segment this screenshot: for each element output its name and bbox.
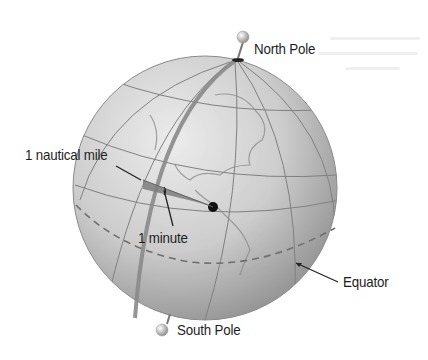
north-pole-label: North Pole (254, 41, 315, 57)
south-pole-pin-icon (156, 314, 170, 336)
equator-label: Equator (343, 274, 388, 290)
globe-diagram (0, 0, 428, 360)
minute-label: 1 minute (138, 230, 188, 246)
nautical-mile-label: 1 nautical mile (25, 147, 108, 163)
north-pole-pin-icon (232, 31, 249, 62)
south-pole-label: South Pole (177, 322, 240, 338)
